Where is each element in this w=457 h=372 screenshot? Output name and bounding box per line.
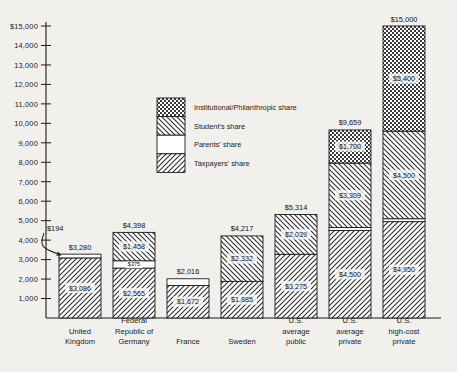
- segment-value-label: $4,500: [339, 270, 361, 279]
- y-axis-tick-label: 6,000: [19, 197, 39, 206]
- bar-group: $2,565$375$1,458$4,398: [113, 221, 155, 318]
- category-axis-labels: UnitedKingdomFederalRepublic ofGermanyFr…: [65, 316, 420, 346]
- category-axis-label: average: [336, 327, 363, 336]
- y-axis-tick-label: 1,000: [19, 294, 39, 303]
- callout-arrow: [42, 233, 61, 255]
- category-axis-label: public: [286, 337, 306, 346]
- category-axis-label: private: [393, 337, 416, 346]
- bar-total-label: $15,000: [391, 15, 418, 24]
- segment-value-label: $4,500: [393, 171, 415, 180]
- chart-legend: Institutional/Philanthropic shareStudent…: [157, 98, 297, 172]
- legend-swatch: [157, 98, 185, 117]
- category-axis-label: U.S.: [289, 316, 304, 325]
- y-axis-tick-label: 14,000: [14, 41, 38, 50]
- legend-swatch: [157, 154, 185, 173]
- segment-value-label: $1,458: [123, 242, 145, 251]
- legend-item-label: Taxpayers' share: [194, 159, 250, 168]
- segment-value-label: $5,400: [393, 74, 415, 83]
- segment-value-label: $375: [128, 261, 140, 267]
- segment-value-label: $3,309: [339, 191, 361, 200]
- category-axis-label: high-cost: [389, 327, 421, 336]
- y-axis-tick-label: 10,000: [14, 119, 38, 128]
- segment-value-label: $2,332: [231, 254, 253, 263]
- category-axis-label: Sweden: [228, 337, 255, 346]
- bar-group: $3,086$3,280: [59, 243, 101, 318]
- category-axis-label: U.S.: [343, 316, 358, 325]
- category-axis-label: Kingdom: [65, 337, 95, 346]
- y-axis-tick-label: 13,000: [14, 61, 38, 70]
- y-axis-tick-label: 12,000: [14, 80, 38, 89]
- segment-value-label: $4,950: [393, 265, 415, 274]
- segment-value-label: $2,039: [285, 230, 307, 239]
- y-axis-tick-label: 5,000: [19, 216, 39, 225]
- legend-item-label: Institutional/Philanthropic share: [194, 103, 297, 112]
- bar-group: $1,672$2,016: [167, 267, 209, 318]
- annotations-group: $194: [42, 224, 64, 255]
- category-axis-label: average: [282, 327, 309, 336]
- bar-group: $3,275$2,039$5,314: [275, 203, 317, 318]
- bar-total-label: $2,016: [177, 267, 200, 276]
- bar-segment: [167, 279, 209, 286]
- callout-label: $194: [47, 224, 63, 233]
- bar-group: $4,500$3,309$1,700$9,659: [329, 118, 371, 318]
- chart-canvas: 1,0002,0003,0004,0005,0006,0007,0008,000…: [0, 0, 457, 372]
- bar-total-label: $3,280: [69, 243, 92, 252]
- category-axis-label: United: [69, 327, 91, 336]
- segment-value-label: $3,275: [285, 282, 307, 291]
- bar-total-label: $5,314: [285, 203, 308, 212]
- bar-total-label: $9,659: [339, 118, 362, 127]
- bar-total-label: $4,398: [123, 221, 146, 230]
- y-axis-tick-label: 8,000: [19, 158, 39, 167]
- category-axis-label: Germany: [118, 337, 149, 346]
- y-axis-tick-label: 4,000: [19, 236, 39, 245]
- category-axis-label: Federal: [121, 316, 147, 325]
- stacked-bar-chart: 1,0002,0003,0004,0005,0006,0007,0008,000…: [0, 0, 457, 372]
- legend-item-label: Student's share: [194, 122, 245, 131]
- category-axis-label: private: [339, 337, 362, 346]
- legend-swatch: [157, 135, 185, 154]
- legend-item-label: Parents' share: [194, 140, 241, 149]
- y-axis-tick-label: $15,000: [10, 22, 38, 31]
- bar-total-label: $4,217: [231, 224, 254, 233]
- y-axis-tick-label: 9,000: [19, 139, 39, 148]
- bar-group: $4,950$4,500$5,400$15,000: [383, 15, 425, 319]
- segment-value-label: $1,885: [231, 295, 253, 304]
- y-axis-tick-label: 3,000: [19, 255, 39, 264]
- bar-group: $1,885$2,332$4,217: [221, 224, 263, 318]
- y-axis-tick-label: 7,000: [19, 178, 39, 187]
- bar-segment: [59, 254, 101, 258]
- category-axis-label: Republic of: [115, 327, 154, 336]
- segment-value-label: $2,565: [123, 289, 145, 298]
- segment-value-label: $1,700: [339, 142, 361, 151]
- y-axis-tick-label: 2,000: [19, 275, 39, 284]
- legend-swatch: [157, 117, 185, 136]
- y-axis-tick-label: 11,000: [15, 100, 38, 109]
- category-axis-label: France: [176, 337, 200, 346]
- category-axis-label: U.S.: [397, 316, 412, 325]
- segment-value-label: $3,086: [69, 284, 91, 293]
- segment-value-label: $1,672: [177, 297, 199, 306]
